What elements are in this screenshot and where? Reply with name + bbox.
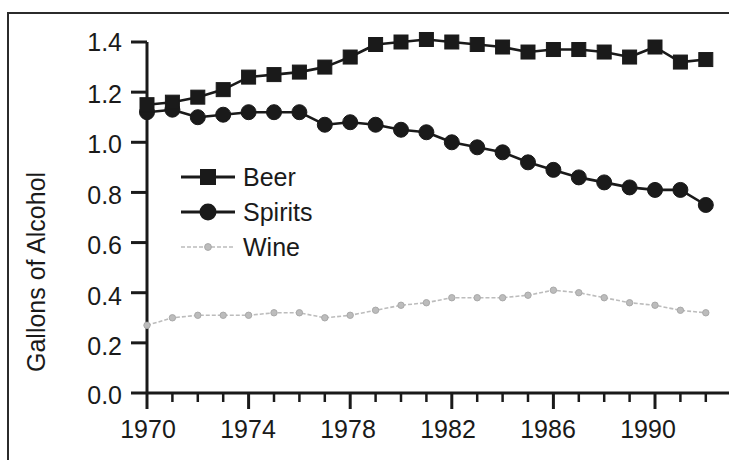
x-axis-ticks [147,393,706,409]
series-line-spirits [140,102,714,212]
plot-area [0,0,729,460]
y-axis-ticks [131,42,147,393]
series-line-wine [144,287,709,328]
legend-markers [181,169,235,250]
chart-figure: Gallons of Alcohol 1.4 1.2 1.0 0.8 0.6 0… [0,0,729,460]
series-line-beer [140,32,713,111]
axis-lines [147,42,729,393]
